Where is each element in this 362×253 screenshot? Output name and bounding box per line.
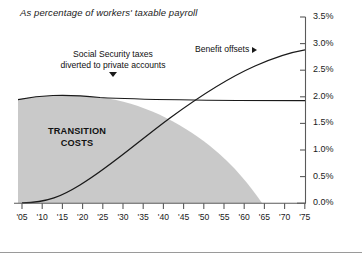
y-tick-label-3-0: 3.0% bbox=[313, 38, 334, 48]
transition-costs-line2: COSTS bbox=[61, 138, 94, 148]
annotation-ss-line2: diverted to private accounts bbox=[60, 60, 165, 70]
y-tick-label-1-5: 1.5% bbox=[313, 117, 334, 127]
down-triangle-icon bbox=[109, 72, 117, 77]
y-tick-label-0-0: 0.0% bbox=[313, 197, 334, 207]
transition-costs-area bbox=[18, 95, 262, 203]
annotation-social-security-taxes: Social Security taxes diverted to privat… bbox=[33, 49, 193, 77]
y-axis-ticks bbox=[297, 17, 306, 203]
y-tick-label-2-0: 2.0% bbox=[313, 91, 334, 101]
y-tick-label-1-0: 1.0% bbox=[313, 144, 334, 154]
x-tick-label-75: '75 bbox=[293, 212, 317, 222]
x-axis-ticks bbox=[22, 203, 305, 209]
chart-figure: As percentage of workers' taxable payrol… bbox=[0, 0, 362, 253]
y-tick-label-3-5: 3.5% bbox=[313, 11, 334, 21]
right-triangle-icon bbox=[252, 47, 257, 53]
annotation-ss-line1: Social Security taxes bbox=[73, 49, 153, 59]
annotation-benefit-offsets: Benefit offsets bbox=[195, 44, 257, 55]
annotation-bo-label: Benefit offsets bbox=[195, 44, 249, 55]
y-tick-label-2-5: 2.5% bbox=[313, 64, 334, 74]
transition-costs-label: TRANSITION COSTS bbox=[22, 126, 132, 149]
y-tick-label-0-5: 0.5% bbox=[313, 171, 334, 181]
transition-costs-line1: TRANSITION bbox=[48, 126, 106, 136]
